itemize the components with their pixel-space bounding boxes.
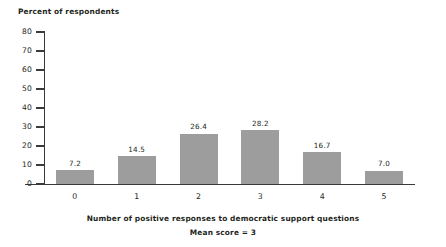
y-axis-title: Percent of respondents <box>18 7 119 16</box>
x-axis-tick-label: 2 <box>184 192 214 201</box>
bar-group: 26.4 <box>180 32 218 184</box>
y-axis-tick <box>36 126 44 127</box>
x-axis-tick-label: 4 <box>307 192 337 201</box>
plot-area: 7.214.526.428.216.77.0 <box>44 32 415 184</box>
x-axis-tick-label: 3 <box>245 192 275 201</box>
bar-value-label: 16.7 <box>314 142 331 150</box>
y-axis-tick-label-wrap: 10 <box>8 160 32 170</box>
y-axis-tick <box>36 107 44 108</box>
bar <box>365 171 403 184</box>
y-axis-tick <box>36 31 44 32</box>
bar-value-label: 7.2 <box>69 160 81 168</box>
x-axis-tick-label: 0 <box>60 192 90 201</box>
bar <box>303 152 341 184</box>
y-axis-tick-label: 20 <box>8 141 32 150</box>
y-axis-tick-label-wrap: 20 <box>8 141 32 151</box>
x-axis-title: Number of positive responses to democrat… <box>0 214 446 223</box>
bar <box>56 170 94 184</box>
y-axis-tick-label-wrap: 80 <box>8 27 32 37</box>
y-axis-tick-label: 50 <box>8 84 32 93</box>
bar-value-label: 28.2 <box>252 120 269 128</box>
bar <box>118 156 156 184</box>
y-axis-tick-label-wrap: 0 <box>8 179 32 189</box>
y-axis-tick <box>36 88 44 89</box>
bar-group: 7.2 <box>56 32 94 184</box>
y-axis-tick <box>36 183 44 184</box>
y-axis-tick-label: 0 <box>8 179 32 188</box>
bar-group: 28.2 <box>241 32 279 184</box>
bar-group: 14.5 <box>118 32 156 184</box>
y-axis-tick-label: 80 <box>8 27 32 36</box>
y-axis-tick-label: 10 <box>8 160 32 169</box>
bar-value-label: 14.5 <box>128 146 145 154</box>
y-axis-tick-label: 40 <box>8 103 32 112</box>
y-axis-tick-label-wrap: 40 <box>8 103 32 113</box>
y-axis-tick-label-wrap: 60 <box>8 65 32 75</box>
y-axis-tick <box>36 164 44 165</box>
y-axis-tick-label-wrap: 30 <box>8 122 32 132</box>
y-axis-tick <box>36 50 44 51</box>
y-axis-tick <box>36 145 44 146</box>
bar-value-label: 26.4 <box>190 123 207 131</box>
y-axis-tick-label: 30 <box>8 122 32 131</box>
y-axis-tick-label: 60 <box>8 65 32 74</box>
y-axis-tick <box>36 69 44 70</box>
y-axis-tick-label-wrap: 50 <box>8 84 32 94</box>
bar-group: 16.7 <box>303 32 341 184</box>
bar-group: 7.0 <box>365 32 403 184</box>
bar-value-label: 7.0 <box>378 160 390 168</box>
bar-chart: Percent of respondents 80706050403020100… <box>0 0 446 247</box>
bar <box>180 134 218 184</box>
x-axis-tick-label: 1 <box>122 192 152 201</box>
y-axis-tick-label-wrap: 70 <box>8 46 32 56</box>
bar <box>241 130 279 184</box>
y-axis-tick-label: 70 <box>8 46 32 55</box>
x-axis-tick-label: 5 <box>369 192 399 201</box>
mean-score-note: Mean score = 3 <box>0 228 446 237</box>
